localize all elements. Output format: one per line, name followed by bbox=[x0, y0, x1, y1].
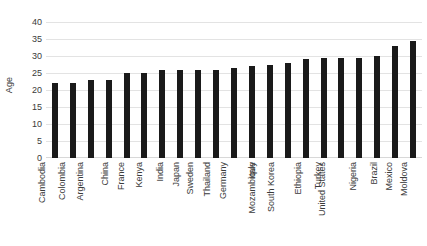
bar-slot bbox=[207, 22, 225, 158]
bar[interactable] bbox=[392, 46, 398, 158]
bar-slot bbox=[118, 22, 136, 158]
bar-slot bbox=[171, 22, 189, 158]
x-axis-tick-label: Brazil bbox=[370, 162, 379, 185]
bar-slot bbox=[297, 22, 315, 158]
x-axis-tick-labels: CambodiaColombiaArgentinaChinaFranceKeny… bbox=[46, 160, 422, 246]
bar-slot bbox=[225, 22, 243, 158]
y-axis-tick-25: 25 bbox=[32, 68, 42, 78]
bar-slot bbox=[189, 22, 207, 158]
x-axis-tick-label: Moldova bbox=[400, 162, 409, 196]
plot-area bbox=[46, 22, 422, 158]
x-axis-tick-label: Mozambique bbox=[248, 162, 257, 214]
x-axis-tick-label: Sweden bbox=[186, 162, 195, 195]
bar[interactable] bbox=[338, 58, 344, 158]
bar[interactable] bbox=[159, 70, 165, 158]
bar-slot bbox=[315, 22, 333, 158]
x-axis-tick-label: Japan bbox=[172, 162, 181, 187]
bar-slot bbox=[100, 22, 118, 158]
bar[interactable] bbox=[141, 73, 147, 158]
x-axis-tick-label: Cambodia bbox=[38, 162, 47, 203]
y-axis-tick-5: 5 bbox=[37, 136, 42, 146]
bar[interactable] bbox=[356, 58, 362, 158]
x-axis-tick-label: Nigeria bbox=[349, 162, 358, 191]
x-axis-tick-slot: Argentina bbox=[82, 160, 100, 246]
bar[interactable] bbox=[52, 83, 58, 158]
bar-slot bbox=[82, 22, 100, 158]
x-axis-tick-slot: Ethiopia bbox=[297, 160, 315, 246]
y-axis-tick-15: 15 bbox=[32, 102, 42, 112]
bar-slot bbox=[46, 22, 64, 158]
x-axis-tick-label: Mexico bbox=[385, 162, 394, 191]
y-axis-tick-40: 40 bbox=[32, 17, 42, 27]
bar[interactable] bbox=[195, 70, 201, 158]
bar[interactable] bbox=[303, 59, 309, 158]
bar-slot bbox=[153, 22, 171, 158]
y-axis-tick-30: 30 bbox=[32, 51, 42, 61]
bar[interactable] bbox=[213, 70, 219, 158]
bar-slot bbox=[243, 22, 261, 158]
bar-slot bbox=[279, 22, 297, 158]
bar-slot bbox=[64, 22, 82, 158]
bar-slot bbox=[136, 22, 154, 158]
bar[interactable] bbox=[88, 80, 94, 158]
bar[interactable] bbox=[106, 80, 112, 158]
y-axis-tick-labels: 0510152025303540 bbox=[18, 16, 44, 160]
x-axis-tick-slot: Nigeria bbox=[350, 160, 368, 246]
x-axis-tick-label: Kenya bbox=[136, 162, 145, 188]
bar[interactable] bbox=[177, 70, 183, 158]
bar[interactable] bbox=[321, 58, 327, 158]
x-axis-tick-label: China bbox=[101, 162, 110, 186]
bar-slot bbox=[368, 22, 386, 158]
x-axis-tick-slot: India bbox=[153, 160, 171, 246]
bar[interactable] bbox=[285, 63, 291, 158]
y-axis-title: Age bbox=[0, 0, 18, 170]
bar[interactable] bbox=[124, 73, 130, 158]
x-axis-tick-label: Germany bbox=[220, 162, 229, 199]
y-axis-tick-20: 20 bbox=[32, 85, 42, 95]
bar[interactable] bbox=[249, 66, 255, 158]
bar-slot bbox=[404, 22, 422, 158]
x-axis-tick-slot: Kenya bbox=[136, 160, 154, 246]
bar-slot bbox=[350, 22, 368, 158]
bar[interactable] bbox=[70, 83, 76, 158]
x-axis-tick-label: Thailand bbox=[203, 162, 212, 197]
x-axis-tick-label: Argentina bbox=[76, 162, 85, 201]
x-axis-tick-slot: France bbox=[118, 160, 136, 246]
bar[interactable] bbox=[267, 65, 273, 159]
x-axis-tick-slot: Moldova bbox=[404, 160, 422, 246]
x-axis-tick-label: Ethiopia bbox=[293, 162, 302, 195]
x-axis-tick-label: India bbox=[157, 162, 166, 182]
bar[interactable] bbox=[410, 41, 416, 158]
y-axis-tick-10: 10 bbox=[32, 119, 42, 129]
x-axis-tick-slot: Germany bbox=[225, 160, 243, 246]
bar-chart: Age 0510152025303540 CambodiaColombiaArg… bbox=[0, 0, 427, 246]
x-axis-tick-label: Colombia bbox=[58, 162, 67, 200]
x-axis-tick-label: South Korea bbox=[267, 162, 276, 212]
bar-series bbox=[46, 22, 422, 158]
y-axis-title-label: Age bbox=[4, 77, 14, 94]
bar-slot bbox=[261, 22, 279, 158]
bar-slot bbox=[333, 22, 351, 158]
y-axis-tick-35: 35 bbox=[32, 34, 42, 44]
x-axis-tick-label: United States bbox=[318, 162, 327, 216]
bar-slot bbox=[386, 22, 404, 158]
x-axis-tick-slot: China bbox=[100, 160, 118, 246]
x-axis-tick-label: France bbox=[117, 162, 126, 190]
bar[interactable] bbox=[374, 56, 380, 158]
bar[interactable] bbox=[231, 68, 237, 158]
